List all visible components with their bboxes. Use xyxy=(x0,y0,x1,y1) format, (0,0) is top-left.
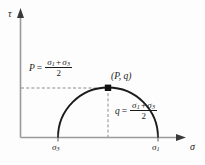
tau-axis xyxy=(17,8,24,138)
formula-p-equals: = xyxy=(37,63,42,73)
diagram-canvas xyxy=(0,0,205,165)
sigma-axis-arrowhead xyxy=(176,134,186,141)
tau-axis-arrowhead xyxy=(17,8,24,18)
formula-p-lhs: P xyxy=(29,63,35,73)
formula-q-equals: = xyxy=(122,106,127,116)
apex-point-label: (P, q) xyxy=(111,72,131,82)
formula-p: P = σ1+σ3 2 xyxy=(29,57,72,78)
formula-p-numerator: σ1+σ3 xyxy=(45,57,72,67)
formula-p-denominator: 2 xyxy=(56,68,61,78)
sigma1-subscript: 1 xyxy=(156,146,159,152)
formula-q-numerator: σ1+σ3 xyxy=(130,100,157,110)
sigma3-subscript: 3 xyxy=(56,146,59,152)
mohr-circle-figure: τ σ σ3 σ1 (P, q) P = σ1+σ3 2 q = σ1+σ3 2 xyxy=(0,0,205,165)
sigma3-tick-label: σ3 xyxy=(52,143,60,152)
formula-q-lhs: q xyxy=(115,106,120,116)
formula-p-fraction: σ1+σ3 2 xyxy=(45,57,72,78)
sigma1-tick-label: σ1 xyxy=(152,143,160,152)
formula-q-denominator: 2 xyxy=(141,111,146,121)
sigma-axis xyxy=(21,134,187,141)
formula-q-fraction: σ1+σ3 2 xyxy=(130,100,157,121)
tau-axis-label: τ xyxy=(8,9,12,19)
apex-point-marker xyxy=(105,85,111,91)
sigma-axis-label: σ xyxy=(190,142,195,152)
formula-q: q = σ1+σ3 2 xyxy=(115,100,157,121)
